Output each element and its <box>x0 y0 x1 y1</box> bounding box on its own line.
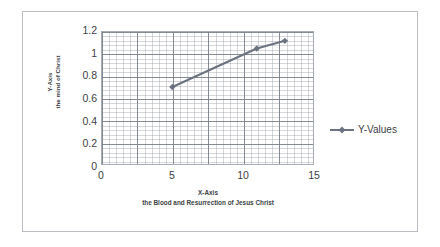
x-tick-label: 5 <box>169 169 175 181</box>
x-tick-label: 15 <box>308 169 320 181</box>
x-axis-title-line1: X-Axis <box>63 188 353 198</box>
x-axis-title-line2: the Blood and Resurrection of Jesus Chri… <box>63 198 353 208</box>
x-axis-title: X-Axis the Blood and Resurrection of Jes… <box>63 188 353 207</box>
y-axis-title: Y-Axis the mind of Christ <box>46 34 62 130</box>
data-point-marker <box>282 38 288 44</box>
data-series-line <box>102 32 313 164</box>
data-point-marker <box>254 45 260 51</box>
plot-area <box>101 31 314 165</box>
chart-legend: Y-Values <box>329 124 397 135</box>
legend-marker-icon <box>329 125 355 135</box>
y-axis-title-line2: the mind of Christ <box>54 34 62 130</box>
x-tick-label: 10 <box>237 169 249 181</box>
x-tick-label: 0 <box>98 169 104 181</box>
y-tick-label: 0 <box>91 161 97 171</box>
data-point-marker <box>169 84 175 90</box>
y-tick-label: 1.2 <box>82 25 97 35</box>
y-tick-label: 1 <box>91 48 97 58</box>
x-axis-tick-labels: 051015 <box>101 169 314 183</box>
y-tick-label: 0.4 <box>82 116 97 126</box>
legend-item-label: Y-Values <box>358 124 397 135</box>
y-tick-label: 0.2 <box>82 138 97 148</box>
chart-frame: Y-Axis the mind of Christ 1.2 1 0.8 0.6 … <box>22 11 418 232</box>
y-axis-tick-labels: 1.2 1 0.8 0.6 0.4 0.2 0 <box>67 25 97 171</box>
y-axis-title-line1: Y-Axis <box>46 34 54 130</box>
y-tick-label: 0.6 <box>82 93 97 103</box>
y-tick-label: 0.8 <box>82 70 97 80</box>
